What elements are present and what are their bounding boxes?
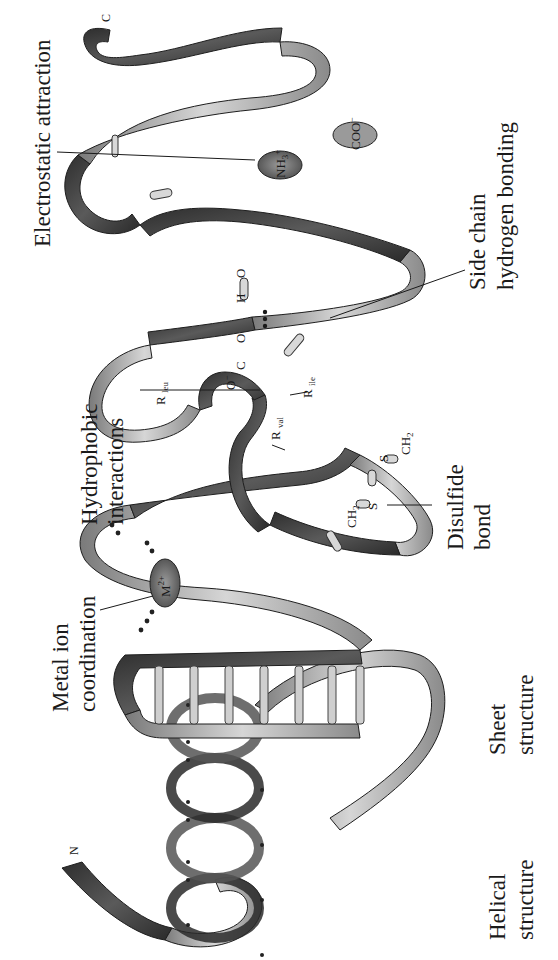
label-hydrophobic-line2: interactions bbox=[103, 418, 128, 525]
label-disulfide-line1: Disulfide bbox=[443, 464, 468, 550]
sidechain-hbond-dots bbox=[263, 310, 267, 328]
protein-structure-diagram: N C Helical structure Sheet structure Me… bbox=[0, 0, 558, 960]
hbond-o-label: O bbox=[233, 334, 248, 343]
label-sidechain-line2: hydrogen bonding bbox=[493, 121, 518, 290]
label-helical-line1: Helical bbox=[485, 874, 510, 940]
sheet-hbond-rungs bbox=[155, 666, 364, 724]
r-val-label: R val bbox=[268, 417, 285, 440]
hbond-c-label: C bbox=[233, 361, 248, 370]
ribbon-helix-to-sheet bbox=[255, 650, 445, 830]
ribbon-metal-loop bbox=[80, 505, 372, 650]
s-b-label: S bbox=[376, 455, 391, 462]
label-hydrophobic-line1: Hydrophobic bbox=[77, 404, 102, 525]
n-terminus-label: N bbox=[67, 846, 81, 855]
hbond-h-label: H bbox=[233, 294, 248, 303]
ch2-b-label: CH2 bbox=[398, 432, 415, 455]
s-a-label: S bbox=[365, 503, 380, 510]
label-metal-line2: coordination bbox=[75, 595, 100, 712]
hbond-o2-label: O bbox=[233, 269, 248, 278]
ribbon-c-terminus bbox=[84, 28, 282, 66]
label-metal-line1: Metal ion bbox=[48, 623, 73, 712]
label-disulfide-line2: bond bbox=[470, 504, 495, 551]
label-sidechain-line1: Side chain bbox=[465, 193, 490, 290]
ribbon-n-terminus bbox=[62, 862, 172, 940]
ch2-a-label: CH2 bbox=[344, 505, 361, 528]
label-helical-line2: structure bbox=[513, 860, 538, 940]
c-terminus-label: C bbox=[99, 14, 113, 22]
r-leu-label: R leu bbox=[153, 382, 170, 405]
ribbon-electrostatic-segment bbox=[65, 155, 140, 234]
label-electrostatic: Electrostatic attraction bbox=[30, 39, 55, 247]
r-ile-label: R ile bbox=[300, 377, 317, 398]
label-sheet-line1: Sheet bbox=[485, 703, 510, 755]
label-sheet-line2: structure bbox=[513, 675, 538, 755]
beta-sheet bbox=[114, 650, 364, 738]
ribbon-hydrophobic-segment bbox=[229, 395, 270, 532]
